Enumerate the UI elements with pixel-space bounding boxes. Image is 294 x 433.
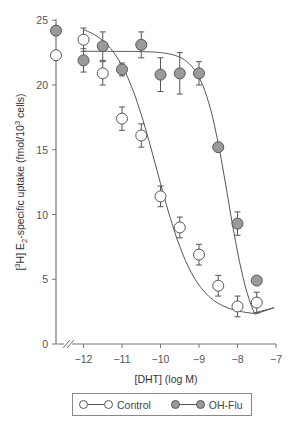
control-point [194,249,205,260]
filled-circle-line-icon [171,400,205,410]
chart: 0510152025−12−11−10−9−8−7 [DHT] (log M) … [0,0,294,433]
x-tick-label: −10 [152,353,170,365]
ohflu-point [174,68,185,79]
x-tick-label: −9 [193,353,205,365]
open-circle-line-icon [79,400,113,410]
ohflu-point [232,218,243,229]
legend-item-control: Control [79,399,151,411]
x-tick-label: −11 [113,353,130,365]
x-tick-label: −12 [75,353,93,365]
y-tick-label: 20 [36,79,48,91]
control-point [97,68,108,79]
basal-control-point [51,50,62,61]
ohflu-point [136,39,147,50]
ohflu-point [97,41,108,52]
y-axis-title: [3H] E2-specific uptake (fmol/103 cells) [13,93,29,270]
basal-ohflu-point [51,25,62,36]
ohflu-point [251,275,262,286]
data-points [51,25,263,317]
control-point [174,222,185,233]
control-point [251,297,262,308]
y-tick-label: 10 [36,209,48,221]
control-point [136,130,147,141]
ohflu-point [155,69,166,80]
ohflu-point [117,64,128,75]
ohflu-point [78,55,89,66]
legend: Control OH-Flu [72,393,252,416]
ohflu-point [194,68,205,79]
y-tick-label: 0 [42,338,48,350]
x-tick-label: −8 [232,353,244,365]
y-tick-label: 15 [36,144,48,156]
x-tick-label: −7 [270,353,282,365]
control-point [232,301,243,312]
control-point [117,113,128,124]
x-axis-title: [DHT] (log M) [135,373,198,385]
y-tick-label: 25 [36,14,48,26]
legend-label: Control [117,399,151,411]
legend-item-ohflu: OH-Flu [171,399,243,411]
ohflu-point [213,142,224,153]
control-point [155,191,166,202]
control-point [78,34,89,45]
control-point [213,280,224,291]
legend-label: OH-Flu [209,399,243,411]
y-tick-label: 5 [42,273,48,285]
